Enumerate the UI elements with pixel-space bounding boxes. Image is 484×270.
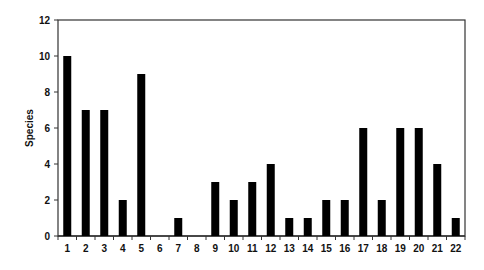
- bar-5: [137, 74, 145, 236]
- x-tick-label: 18: [376, 243, 388, 254]
- bar-22: [452, 218, 460, 236]
- x-tick-label: 4: [120, 243, 126, 254]
- y-tick-label: 6: [44, 123, 50, 134]
- bar-9: [211, 182, 219, 236]
- x-tick-label: 13: [284, 243, 296, 254]
- y-tick-label: 8: [44, 87, 50, 98]
- x-tick-label: 7: [175, 243, 181, 254]
- bar-14: [304, 218, 312, 236]
- x-tick-label: 22: [450, 243, 462, 254]
- x-tick-label: 9: [212, 243, 218, 254]
- bar-3: [100, 110, 108, 236]
- bar-10: [230, 200, 238, 236]
- x-tick-label: 19: [395, 243, 407, 254]
- x-tick-label: 5: [138, 243, 144, 254]
- bar-4: [119, 200, 127, 236]
- y-tick-label: 12: [39, 15, 51, 26]
- bar-7: [174, 218, 182, 236]
- bar-21: [433, 164, 441, 236]
- x-tick-label: 20: [413, 243, 425, 254]
- bar-2: [82, 110, 90, 236]
- bar-13: [285, 218, 293, 236]
- bar-12: [267, 164, 275, 236]
- bars: [63, 56, 460, 236]
- y-axis: 024681012: [39, 15, 58, 242]
- bar-18: [378, 200, 386, 236]
- x-tick-label: 1: [64, 243, 70, 254]
- bar-19: [396, 128, 404, 236]
- x-tick-label: 14: [302, 243, 314, 254]
- bar-15: [322, 200, 330, 236]
- bar-20: [415, 128, 423, 236]
- bar-1: [63, 56, 71, 236]
- y-tick-label: 0: [44, 231, 50, 242]
- x-tick-label: 10: [228, 243, 240, 254]
- y-tick-label: 4: [44, 159, 50, 170]
- species-bar-chart: 024681012 123456789101112131415161718192…: [0, 0, 484, 270]
- x-tick-label: 17: [358, 243, 370, 254]
- bar-17: [359, 128, 367, 236]
- y-tick-label: 2: [44, 195, 50, 206]
- x-tick-label: 15: [321, 243, 333, 254]
- x-axis: 12345678910111213141516171819202122: [58, 236, 465, 254]
- x-tick-label: 21: [432, 243, 444, 254]
- x-tick-label: 2: [83, 243, 89, 254]
- y-axis-title: Species: [24, 109, 35, 147]
- x-tick-label: 6: [157, 243, 163, 254]
- x-tick-label: 11: [247, 243, 258, 254]
- x-tick-label: 8: [194, 243, 200, 254]
- y-tick-label: 10: [39, 51, 51, 62]
- x-tick-label: 3: [101, 243, 107, 254]
- bar-11: [248, 182, 256, 236]
- x-tick-label: 12: [265, 243, 277, 254]
- bar-16: [341, 200, 349, 236]
- x-tick-label: 16: [339, 243, 351, 254]
